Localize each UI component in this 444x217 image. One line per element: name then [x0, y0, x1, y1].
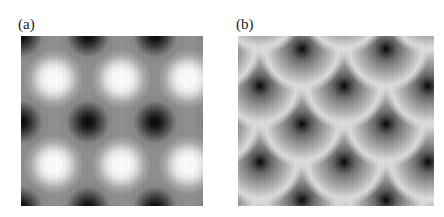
panel-b-grayscale-map	[238, 36, 434, 206]
panel-b	[238, 36, 434, 206]
panel-a-grayscale-map	[21, 36, 203, 206]
panel-a	[21, 36, 203, 206]
panel-label-a: (a)	[18, 17, 35, 32]
figure-container: (a) (b)	[0, 0, 444, 217]
panel-label-b: (b)	[236, 17, 254, 32]
